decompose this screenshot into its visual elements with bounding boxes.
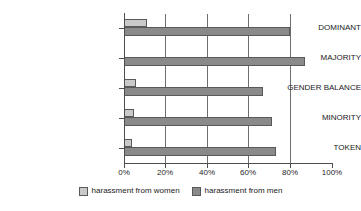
legend-item-women: harassment from women [79, 186, 180, 196]
category-label-dominant: DOMINANT [247, 23, 361, 33]
x-axis [124, 163, 333, 164]
bar-women-minority [124, 109, 134, 117]
bar-men-gender-balance [124, 87, 263, 96]
legend-swatch-women-icon [79, 187, 88, 196]
y-tick-token [119, 148, 124, 149]
category-label-gender-balance: GENDER BALANCE [247, 83, 361, 93]
legend-label-women: harassment from women [92, 186, 180, 196]
y-tick-majority [119, 58, 124, 59]
legend-item-men: harassment from men [192, 186, 283, 196]
y-tick-gender-balance [119, 88, 124, 89]
x-tick-label-80: 80% [282, 168, 298, 178]
x-tick-label-40: 40% [199, 168, 215, 178]
bar-women-gender-balance [124, 79, 136, 87]
x-tick-label-0: 0% [118, 168, 130, 178]
category-label-token: TOKEN [247, 143, 361, 153]
category-label-majority: MAJORITY [247, 53, 361, 63]
chart-legend: harassment from women harassment from me… [0, 186, 361, 196]
legend-swatch-men-icon [192, 187, 201, 196]
y-tick-dominant [119, 28, 124, 29]
bar-chart: DOMINANT MAJORITY GENDER BALANCE MINORIT… [0, 0, 361, 211]
x-tick-label-60: 60% [240, 168, 256, 178]
bar-women-dominant [124, 19, 147, 27]
x-tick-label-100: 100% [322, 168, 342, 178]
x-tick-label-20: 20% [157, 168, 173, 178]
bar-women-token [124, 139, 132, 147]
category-label-minority: MINORITY [247, 113, 361, 123]
y-tick-minority [119, 118, 124, 119]
y-axis [124, 13, 125, 164]
legend-label-men: harassment from men [205, 186, 283, 196]
